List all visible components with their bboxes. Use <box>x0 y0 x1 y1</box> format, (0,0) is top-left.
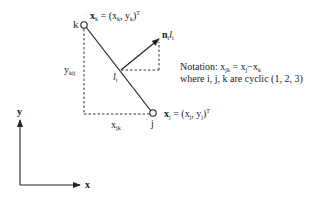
y-axis-label: y <box>17 106 22 117</box>
normal-label: nili <box>162 29 174 41</box>
notation-line-1: Notation: xjk = xj−xk <box>180 61 261 73</box>
midpoint-label: li <box>113 71 118 83</box>
y-component-label: ykij <box>64 64 76 76</box>
vertex-k-coords: xk = (xk, yk)T <box>90 10 140 22</box>
normal-arrow <box>121 39 159 70</box>
vertex-j-coords: xj = (xj, yj)T <box>164 108 210 120</box>
edge-line <box>86 27 151 111</box>
vertex-k-label: k <box>73 18 79 30</box>
edge-normal-diagram: k xk = (xk, yk)T j xj = (xj, yj)T li nil… <box>0 0 320 198</box>
vertex-j-node <box>150 110 156 116</box>
vertex-j-label: j <box>150 118 154 129</box>
notation-line-2: where i, j, k are cyclic (1, 2, 3) <box>180 73 303 85</box>
x-axis-label: x <box>85 179 90 190</box>
x-component-label: xjk <box>111 119 121 131</box>
vertex-k-node <box>81 22 87 28</box>
